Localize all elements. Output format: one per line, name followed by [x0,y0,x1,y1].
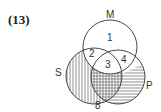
region-3: 3 [105,59,111,70]
region-4: 4 [121,54,127,65]
label-m: M [106,9,114,20]
region-8: 8 [95,100,101,111]
region-2: 2 [89,48,95,59]
label-s: S [55,67,62,78]
label-p: P [146,80,153,91]
venn-diagram: M S P 1 2 3 4 8 [0,0,161,112]
region-1: 1 [107,32,113,43]
